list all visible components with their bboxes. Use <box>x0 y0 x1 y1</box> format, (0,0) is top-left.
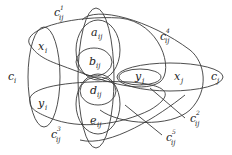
label-c-5: c 5 ij <box>166 128 176 147</box>
label-y-j: y j <box>134 70 145 85</box>
label-c-2: c 2 ij <box>190 109 200 128</box>
label-y-i: y i <box>37 97 47 112</box>
label-c-i: c i <box>8 70 16 85</box>
set-ab <box>76 20 120 80</box>
hyperedge-c2-line <box>150 88 185 118</box>
hypergraph-diagram: c 1 ij c 4 ij c 2 ij c 3 ij c 5 ij c i <box>0 0 232 155</box>
svg-text:ij: ij <box>97 91 102 99</box>
label-e-ij: e ij <box>90 114 102 129</box>
svg-text:ij: ij <box>195 120 200 128</box>
svg-text:ij: ij <box>59 14 64 22</box>
label-c-3: c 3 ij <box>51 125 61 144</box>
diagram-svg: c 1 ij c 4 ij c 2 ij c 3 ij c 5 ij c i <box>0 0 232 155</box>
svg-text:y: y <box>134 70 142 83</box>
svg-text:i: i <box>14 77 16 85</box>
svg-text:1: 1 <box>60 4 64 11</box>
svg-text:ij: ij <box>98 33 103 41</box>
hyperedge-c5-line <box>125 105 162 135</box>
svg-text:i: i <box>45 104 47 112</box>
label-d-ij: d ij <box>90 84 102 99</box>
svg-text:ij: ij <box>165 37 170 45</box>
svg-text:e: e <box>90 114 97 127</box>
label-c-1: c 1 ij <box>54 4 64 22</box>
hyperedge-c3 <box>30 82 166 125</box>
svg-text:ij: ij <box>97 121 102 129</box>
label-b-ij: b ij <box>89 55 101 70</box>
svg-text:d: d <box>90 84 97 97</box>
label-a-ij: a ij <box>91 26 103 41</box>
svg-text:5: 5 <box>172 128 176 135</box>
label-c-j: c j <box>211 70 220 85</box>
svg-text:i: i <box>45 47 47 55</box>
svg-text:x: x <box>38 40 45 53</box>
svg-text:ij: ij <box>171 139 176 147</box>
svg-text:x: x <box>174 70 181 83</box>
svg-text:3: 3 <box>57 125 61 132</box>
svg-text:a: a <box>91 26 98 39</box>
svg-text:ij: ij <box>56 136 61 144</box>
label-x-j: x j <box>174 70 184 85</box>
svg-text:2: 2 <box>195 109 200 116</box>
label-x-i: x i <box>38 40 47 55</box>
svg-text:ij: ij <box>96 62 101 70</box>
svg-text:y: y <box>37 97 45 110</box>
svg-text:4: 4 <box>165 27 170 34</box>
svg-text:b: b <box>89 55 96 68</box>
